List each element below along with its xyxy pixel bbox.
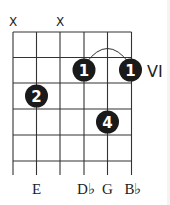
note-label-string-2: E (32, 181, 41, 197)
note-label-string-6: B♭ (124, 181, 141, 197)
right-edge-strip (167, 0, 170, 205)
finger-dot-4: 4 (96, 111, 119, 134)
finger-dot-1a: 1 (73, 59, 96, 82)
muted-string-3-marker: X (56, 15, 64, 29)
muted-string-1-marker: X (9, 15, 17, 29)
svg-text:2: 2 (31, 88, 41, 106)
note-label-string-4: D♭ (77, 181, 95, 197)
fret-position-label: VI (147, 62, 163, 81)
chord-diagram: X X 1 1 (0, 0, 170, 205)
note-label-string-5: G (102, 181, 113, 197)
finger-dot-1b: 1 (119, 59, 142, 82)
finger-dot-2: 2 (25, 85, 48, 108)
svg-text:4: 4 (102, 114, 112, 132)
svg-text:1: 1 (79, 62, 89, 80)
chord-diagram-svg: X X 1 1 (0, 0, 170, 205)
svg-text:1: 1 (125, 62, 135, 80)
